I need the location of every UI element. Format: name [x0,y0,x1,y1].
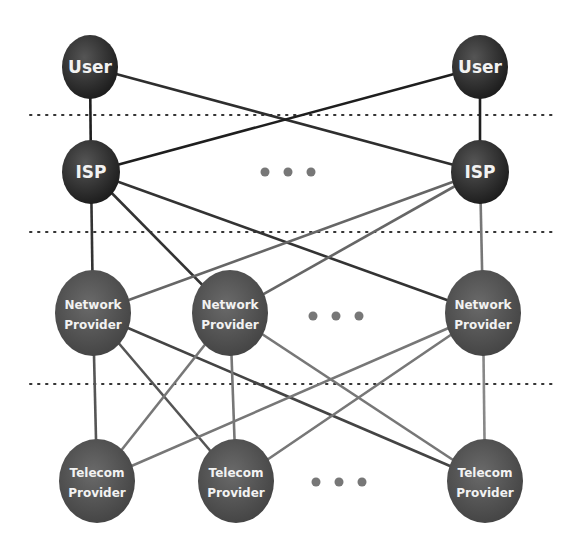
node-label: Provider [207,486,265,500]
ellipsis-isp [261,168,316,177]
node-label: Provider [454,318,512,332]
node-tel1: TelecomProvider [59,439,135,523]
node-label: Telecom [70,466,125,480]
node-tel3: TelecomProvider [447,439,523,523]
node-net3: NetworkProvider [445,270,521,356]
node-label: Provider [456,486,514,500]
node-label: Provider [64,318,122,332]
ellipsis-telecom [312,478,367,487]
node-label: User [458,57,502,77]
node-label: User [68,57,112,77]
node-user2: User [452,35,508,99]
node-user1: User [62,35,118,99]
node-label: ISP [75,162,106,182]
node-label: Provider [68,486,126,500]
node-label: Network [64,298,122,312]
node-label: Telecom [458,466,513,480]
node-label: Telecom [209,466,264,480]
node-label: Provider [201,318,259,332]
edges [90,67,485,481]
ellipsis-indicators [261,168,367,487]
ellipsis-network [309,312,364,321]
edge-isp2-net2 [230,172,480,313]
node-label: Network [454,298,512,312]
node-label: ISP [464,162,495,182]
node-tel2: TelecomProvider [198,439,274,523]
node-isp2: ISP [451,140,509,204]
node-label: Network [201,298,259,312]
node-net2: NetworkProvider [192,270,268,356]
node-isp1: ISP [62,140,120,204]
node-net1: NetworkProvider [55,270,131,356]
network-hierarchy-diagram: UserUserISPISPNetworkProviderNetworkProv… [0,0,588,557]
